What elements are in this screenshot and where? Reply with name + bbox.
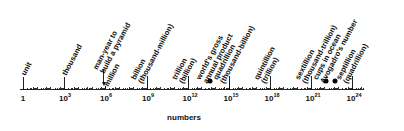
minor-tick	[27, 88, 28, 89]
minor-tick	[96, 88, 97, 89]
decade-tick	[119, 87, 120, 90]
minor-tick	[123, 88, 124, 89]
decade-tick	[160, 87, 161, 90]
decade-tick	[324, 87, 325, 90]
minor-tick	[329, 88, 330, 89]
tick-label-1e21: 1021	[305, 94, 320, 103]
minor-tick	[260, 88, 261, 89]
avogadro-dot	[333, 79, 338, 84]
minor-tick	[274, 88, 275, 89]
decade-tick	[338, 87, 339, 90]
tick-label-1e9: 109	[142, 94, 154, 103]
decade-tick	[201, 87, 202, 90]
tick-label-1e15: 1015	[223, 94, 238, 103]
minor-tick	[82, 88, 83, 89]
minor-tick	[233, 88, 234, 89]
decade-tick	[37, 87, 38, 90]
tick-label-1e3: 103	[59, 94, 71, 103]
label-unit: unit	[20, 61, 34, 77]
minor-tick	[356, 88, 357, 89]
thousand-stem	[64, 77, 65, 87]
decade-tick	[297, 87, 298, 90]
label-billion: billion(thousand-million)	[130, 19, 175, 85]
unit-stem	[23, 77, 24, 87]
decade-tick	[256, 87, 257, 90]
tick-label-1: 1	[21, 94, 25, 103]
decade-tick	[133, 87, 134, 90]
tick-label-1e12: 1012	[182, 94, 197, 103]
tick-label-1e24: 1024	[346, 94, 361, 103]
minor-tick	[150, 88, 151, 89]
minor-tick	[205, 88, 206, 89]
minor-tick	[164, 88, 165, 89]
minor-tick	[246, 88, 247, 89]
minor-tick	[192, 88, 193, 89]
minor-tick	[178, 88, 179, 89]
decade-tick	[283, 87, 284, 90]
label-thousand: thousand	[61, 43, 84, 77]
decade-tick	[174, 87, 175, 90]
minor-tick	[287, 88, 288, 89]
label-trillion: trillion(billion)	[171, 53, 198, 85]
label-quintillion: quintillion(trillion)	[253, 45, 284, 85]
decade-tick	[78, 87, 79, 90]
minor-tick	[342, 88, 343, 89]
tick-label-1e18: 1018	[264, 94, 279, 103]
minor-tick	[41, 88, 42, 89]
tick-label-1e6: 106	[100, 94, 112, 103]
minor-tick	[301, 88, 302, 89]
minor-tick	[68, 88, 69, 89]
decade-tick	[215, 87, 216, 90]
minor-tick	[219, 88, 220, 89]
major-tick	[105, 86, 106, 90]
log-axis-line	[20, 89, 364, 90]
x-axis-label: numbers	[167, 113, 201, 122]
minor-tick	[363, 88, 364, 89]
minor-tick	[137, 88, 138, 89]
decade-tick	[242, 87, 243, 90]
number-scale-diagram: 1 103 106 109 1012 1015 1018 1021 1024 u…	[0, 0, 404, 131]
minor-tick	[315, 88, 316, 89]
decade-tick	[92, 87, 93, 90]
minor-tick	[55, 88, 56, 89]
decade-tick	[50, 87, 51, 90]
